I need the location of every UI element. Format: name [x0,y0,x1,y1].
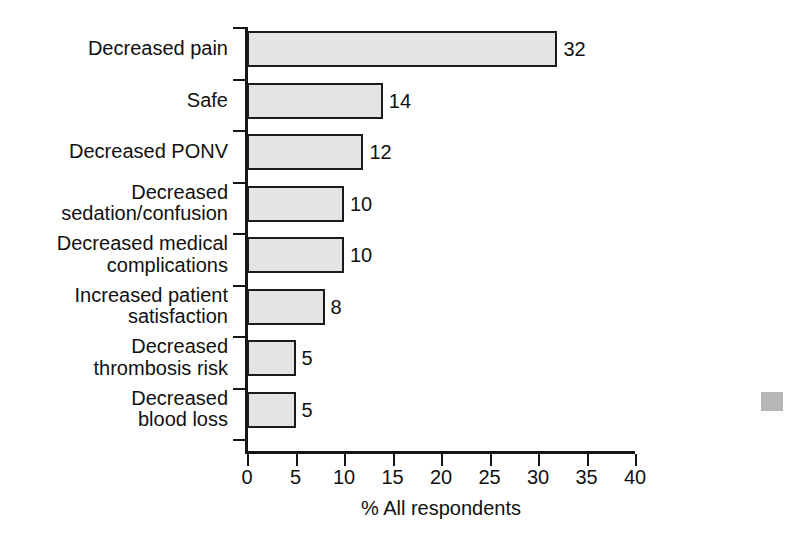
x-axis-tick [441,454,443,466]
x-axis-tick-label: 20 [419,467,463,487]
category-label: Decreased pain [88,38,228,60]
x-axis-tick [490,454,492,466]
category-label: Decreased blood loss [131,388,228,431]
x-axis-title: % All respondents [245,497,637,520]
x-axis-tick [344,454,346,466]
y-axis-tick [233,27,246,29]
chart-page: 32Decreased pain14Safe12Decreased PONV10… [0,0,788,547]
category-label: Increased patient satisfaction [75,285,228,328]
x-axis-tick [587,454,589,466]
y-axis-tick [233,233,246,235]
bar [247,237,344,273]
category-label: Decreased PONV [69,141,228,163]
bar [247,289,325,325]
y-axis-tick [233,336,246,338]
category-label: Decreased medical complications [57,233,228,276]
y-axis-tick [233,285,246,287]
x-axis-tick-label: 15 [371,467,415,487]
bar [247,134,363,170]
bar [247,340,296,376]
x-axis-tick [538,454,540,466]
scan-artifact [761,392,783,411]
bar-value-label: 5 [302,400,313,420]
y-axis-tick [233,79,246,81]
bar-value-label: 12 [369,142,391,162]
y-axis-tick [233,130,246,132]
bar-value-label: 10 [350,194,372,214]
y-axis-tick [233,439,246,441]
x-axis-tick [635,454,637,466]
bar-value-label: 14 [389,91,411,111]
bar-value-label: 5 [302,348,313,368]
x-axis-line [245,451,635,454]
bar [247,392,296,428]
bar-value-label: 8 [331,297,342,317]
x-axis-tick-label: 0 [225,467,269,487]
x-axis-tick [296,454,298,466]
bar-value-label: 10 [350,245,372,265]
bar [247,186,344,222]
y-axis-tick [233,182,246,184]
bar [247,31,557,67]
y-axis-tick [233,388,246,390]
bar-value-label: 32 [563,39,585,59]
bar-chart: 32Decreased pain14Safe12Decreased PONV10… [0,0,788,547]
category-label: Decreased thrombosis risk [94,336,228,379]
x-axis-tick-label: 30 [516,467,560,487]
x-axis-tick [393,454,395,466]
x-axis-tick-label: 40 [613,467,657,487]
category-label: Safe [187,90,228,112]
x-axis-tick-label: 35 [565,467,609,487]
x-axis-tick-label: 10 [322,467,366,487]
x-axis-tick [247,454,249,466]
bar [247,83,383,119]
x-axis-tick-label: 5 [274,467,318,487]
x-axis-tick-label: 25 [468,467,512,487]
category-label: Decreased sedation/confusion [61,182,228,225]
